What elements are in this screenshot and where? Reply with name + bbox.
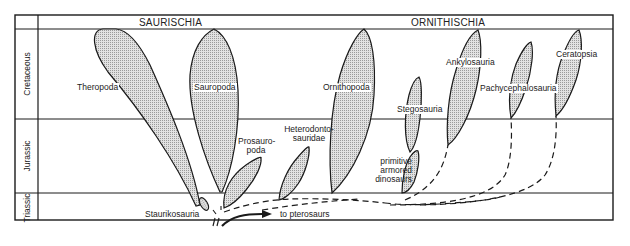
period-triassic: Triassic — [22, 184, 32, 232]
theropoda-branch — [94, 29, 200, 206]
base-ticks — [213, 206, 221, 226]
label-primitive-armored-dinosaurs: primitive armored dinosaurs — [370, 157, 412, 184]
label-ornithopoda: Ornithopoda — [322, 83, 371, 92]
saurischia-header: SAURISCHIA — [139, 17, 202, 28]
label-ankylosauria: Ankylosauria — [445, 58, 496, 67]
period-cretaceous: Cretaceous — [22, 46, 32, 102]
label-to-pterosaurs: to pterosaurs — [280, 210, 330, 219]
ceratopsia-branch — [555, 30, 581, 116]
pterosaur-arrow — [222, 210, 272, 226]
period-jurassic: Jurassic — [22, 130, 32, 182]
stegosauria-branch — [405, 77, 421, 152]
label-staurikosauria: Staurikosauria — [145, 210, 199, 219]
pachycephalosauria-branch — [510, 42, 533, 118]
label-primitive-armored-line3: dinosaurs — [370, 175, 412, 184]
label-heterodontosauridae-line2: sauridae — [279, 134, 339, 143]
heterodontosauridae-branch — [279, 147, 309, 200]
ornithopoda-branch — [330, 29, 374, 193]
label-prosauropoda: Prosauro- poda — [238, 137, 274, 155]
label-prosauropoda-line2: poda — [238, 146, 274, 155]
label-theropoda: Theropoda — [76, 83, 119, 92]
label-pachycephalosauria: Pachycephalosauria — [479, 84, 558, 93]
label-heterodontosauridae: Heterodonto- sauridae — [279, 125, 339, 143]
sauropoda-branch — [190, 29, 238, 192]
label-sauropoda: Sauropoda — [193, 83, 237, 92]
ornithischia-header: ORNITHISCHIA — [411, 17, 485, 28]
label-stegosauria: Stegosauria — [396, 105, 443, 114]
label-ceratopsia: Ceratopsia — [555, 50, 598, 59]
ankylosauria-branch — [447, 30, 481, 145]
